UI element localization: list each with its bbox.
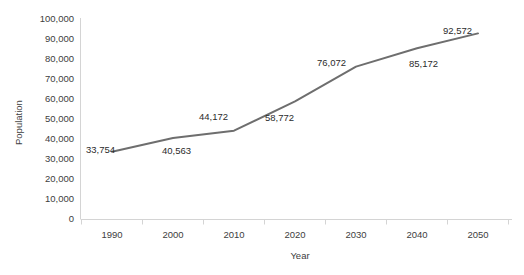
x-tick-label-2050: 2050 <box>448 230 508 240</box>
y-axis-title: Population <box>14 100 24 145</box>
x-axis-title: Year <box>270 251 330 261</box>
y-tick-label-20000: 20,000 <box>22 174 74 184</box>
y-tick-label-100000: 100,000 <box>22 14 74 24</box>
y-tick-label-90000: 90,000 <box>22 34 74 44</box>
y-tick-label-40000: 40,000 <box>22 134 74 144</box>
series-line-population <box>112 33 478 151</box>
y-tick-label-50000: 50,000 <box>22 114 74 124</box>
y-tick-label-60000: 60,000 <box>22 94 74 104</box>
y-tick-label-10000: 10,000 <box>22 194 74 204</box>
x-tick-label-2020: 2020 <box>265 230 325 240</box>
x-tick-label-2030: 2030 <box>326 230 386 240</box>
population-line-chart: 100,000 90,000 80,000 70,000 60,000 50,0… <box>0 0 524 275</box>
data-label-2040: 85,172 <box>409 59 438 69</box>
y-tick-label-30000: 30,000 <box>22 154 74 164</box>
y-tick-label-70000: 70,000 <box>22 74 74 84</box>
y-tick-label-0: 0 <box>22 214 74 224</box>
x-tick-label-2000: 2000 <box>143 230 203 240</box>
y-tick-label-80000: 80,000 <box>22 54 74 64</box>
data-label-2010: 44,172 <box>199 112 228 122</box>
data-label-2050: 92,572 <box>443 26 472 36</box>
data-label-2030: 76,072 <box>317 58 346 68</box>
x-tick-label-2040: 2040 <box>387 230 447 240</box>
x-tick-label-1990: 1990 <box>82 230 142 240</box>
x-tick-label-2010: 2010 <box>204 230 264 240</box>
data-label-1990: 33,754 <box>86 145 115 155</box>
data-label-2020: 58,772 <box>265 113 294 123</box>
data-label-2000: 40,563 <box>162 146 191 156</box>
x-axis-ticks <box>82 220 509 225</box>
